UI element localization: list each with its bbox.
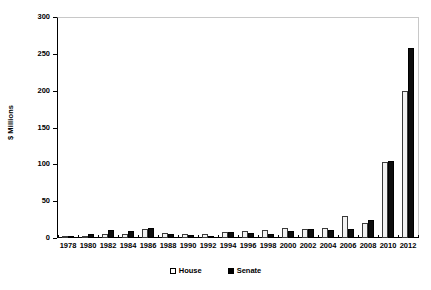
- bar-senate-2012: [408, 48, 414, 238]
- bar-senate-1978: [68, 236, 74, 238]
- bar-house-1984: [122, 234, 128, 238]
- legend-item-senate: Senate: [228, 266, 262, 275]
- bar-senate-2002: [308, 229, 314, 238]
- bar-group: [158, 17, 178, 238]
- bar-group: [178, 17, 198, 238]
- bar-group: [298, 17, 318, 238]
- bar-house-1996: [242, 231, 248, 238]
- bar-group: [98, 17, 118, 238]
- bar-house-1994: [222, 232, 228, 238]
- y-axis-tick-label: 250: [37, 49, 50, 58]
- bar-chart: $ Millions 050100150200250300 1978198019…: [0, 0, 431, 290]
- bar-house-2002: [302, 229, 308, 238]
- bar-house-1980: [82, 236, 88, 238]
- bar-group: [378, 17, 398, 238]
- y-axis-title: $ Millions: [0, 0, 22, 245]
- bar-group: [198, 17, 218, 238]
- bar-house-2010: [382, 162, 388, 238]
- bar-house-1998: [262, 230, 268, 238]
- bar-house-2004: [322, 228, 328, 238]
- bar-senate-2006: [348, 229, 354, 238]
- chart-legend: House Senate: [0, 266, 431, 275]
- bar-senate-1982: [108, 230, 114, 238]
- y-axis-tick-mark: [53, 238, 57, 239]
- bar-senate-1994: [228, 232, 234, 238]
- legend-item-house: House: [170, 266, 202, 275]
- bar-group: [118, 17, 138, 238]
- bar-senate-2010: [388, 161, 394, 238]
- bar-group: [338, 17, 358, 238]
- bar-house-2012: [402, 91, 408, 238]
- legend-swatch-senate-icon: [228, 268, 234, 274]
- y-axis-tick-label: 200: [37, 86, 50, 95]
- bar-group: [78, 17, 98, 238]
- bar-group: [138, 17, 158, 238]
- y-axis-title-label: $ Millions: [7, 105, 16, 140]
- bar-senate-1996: [248, 233, 254, 238]
- y-axis-tick-label: 50: [42, 196, 50, 205]
- bar-senate-1984: [128, 231, 134, 238]
- bar-group: [318, 17, 338, 238]
- y-axis-tick-label: 150: [37, 123, 50, 132]
- x-axis-tick-mark: [58, 235, 59, 238]
- x-axis-tick-label: 2012: [395, 241, 421, 251]
- bar-house-2006: [342, 216, 348, 238]
- bar-group: [258, 17, 278, 238]
- bars-layer: [58, 17, 418, 238]
- bar-group: [358, 17, 378, 238]
- bar-house-2008: [362, 223, 368, 238]
- x-axis-tick-mark: [418, 235, 419, 238]
- bar-group: [238, 17, 258, 238]
- bar-house-2000: [282, 228, 288, 238]
- legend-swatch-house-icon: [170, 268, 176, 274]
- bar-senate-1980: [88, 234, 94, 238]
- y-axis-tick-label: 300: [37, 12, 50, 21]
- bar-group: [218, 17, 238, 238]
- bar-house-1988: [162, 233, 168, 238]
- bar-senate-2008: [368, 220, 374, 238]
- bar-senate-1992: [208, 236, 214, 238]
- bar-house-1992: [202, 234, 208, 238]
- bar-house-1986: [142, 229, 148, 238]
- bar-group: [398, 17, 418, 238]
- bar-senate-1986: [148, 228, 154, 238]
- bar-house-1978: [62, 236, 68, 238]
- bar-senate-2004: [328, 230, 334, 238]
- bar-group: [58, 17, 78, 238]
- bar-senate-1990: [188, 235, 194, 238]
- bar-senate-1998: [268, 234, 274, 238]
- bar-house-1982: [102, 234, 108, 238]
- legend-label-house: House: [179, 266, 202, 275]
- bar-senate-2000: [288, 231, 294, 238]
- bar-group: [278, 17, 298, 238]
- y-axis-tick-label: 100: [37, 159, 50, 168]
- y-axis-tick-label: 0: [46, 233, 50, 242]
- legend-label-senate: Senate: [237, 266, 262, 275]
- x-axis-ticks: 1978198019821984198619881990199219941996…: [58, 241, 418, 255]
- bar-senate-1988: [168, 234, 174, 238]
- bar-house-1990: [182, 234, 188, 238]
